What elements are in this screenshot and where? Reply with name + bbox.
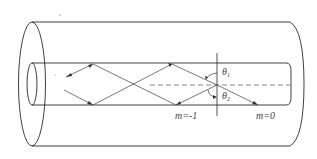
speck — [59, 14, 60, 15]
mode-minus1-label: m=-1 — [175, 110, 197, 121]
arrow-icon — [66, 73, 72, 77]
theta1-label: θ1 — [222, 66, 230, 78]
arrow-icon — [168, 63, 172, 67]
cladding — [19, 22, 305, 146]
mode-zero-label: m=0 — [256, 110, 275, 121]
fiber-diagram: θ1 θ2 m=-1 m=0 — [0, 0, 317, 159]
theta1-arc — [207, 73, 217, 78]
arrow-icon — [252, 101, 258, 105]
core — [27, 63, 291, 105]
theta2-label: θ2 — [222, 90, 230, 102]
arrow-icon — [176, 101, 181, 105]
speck — [54, 74, 55, 75]
arrow-icon — [88, 64, 93, 68]
arrow-icon — [87, 101, 93, 105]
arrow-icon — [213, 95, 217, 99]
